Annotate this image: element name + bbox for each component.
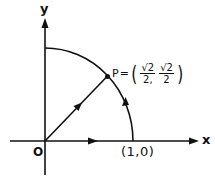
point-1-0-label: (1,0)	[121, 144, 154, 159]
x-axis-direction-arrow-icon	[88, 138, 98, 145]
y-denominator: 2	[163, 74, 169, 85]
point-p-dot	[105, 74, 110, 79]
y-axis-arrowhead-icon	[42, 18, 49, 28]
x-axis-arrowhead-icon	[189, 138, 199, 145]
point-p-equals: =	[120, 67, 129, 80]
y-coordinate-fraction: √2 2	[159, 62, 174, 85]
y-axis-label: y	[40, 1, 48, 16]
y-numerator: √2	[159, 62, 174, 74]
close-paren: )	[177, 63, 183, 85]
x-numerator: √2	[140, 62, 155, 74]
x-coordinate-fraction: √2 2,	[140, 62, 155, 85]
x-denominator: 2,	[143, 74, 153, 85]
point-p-name: P	[112, 67, 119, 80]
origin-label: O	[33, 145, 43, 159]
point-p-label: P = ( √2 2, √2 2 )	[112, 62, 185, 85]
x-axis-label: x	[202, 132, 210, 147]
open-paren: (	[131, 63, 137, 85]
